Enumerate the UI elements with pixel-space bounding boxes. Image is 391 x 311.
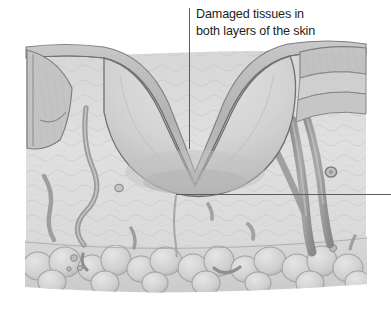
callout-label-damaged-tissues: Damaged tissues in both layers of the sk… — [196, 6, 386, 40]
leader-line-vertical — [189, 8, 190, 149]
figure-canvas: Damaged tissues in both layers of the sk… — [0, 0, 391, 311]
leader-line-horizontal — [176, 194, 391, 195]
skin-cross-section-illustration — [0, 0, 391, 311]
